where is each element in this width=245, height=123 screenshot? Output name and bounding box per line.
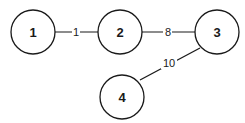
node-1: 1 bbox=[11, 10, 55, 54]
node-label: 1 bbox=[29, 25, 36, 40]
node-4: 4 bbox=[100, 75, 144, 119]
edge-2-3: 8 bbox=[142, 25, 195, 38]
edge-weight: 8 bbox=[165, 26, 171, 38]
node-label: 4 bbox=[118, 90, 126, 105]
graph-diagram: 1 8 10 1 2 3 4 bbox=[0, 0, 245, 123]
edge-1-2: 1 bbox=[55, 25, 98, 38]
edge-3-4: 10 bbox=[140, 48, 200, 80]
node-2: 2 bbox=[98, 10, 142, 54]
node-label: 3 bbox=[213, 25, 220, 40]
edge-weight: 10 bbox=[163, 57, 175, 69]
node-label: 2 bbox=[116, 25, 123, 40]
edge-weight: 1 bbox=[73, 26, 79, 38]
node-3: 3 bbox=[195, 10, 239, 54]
